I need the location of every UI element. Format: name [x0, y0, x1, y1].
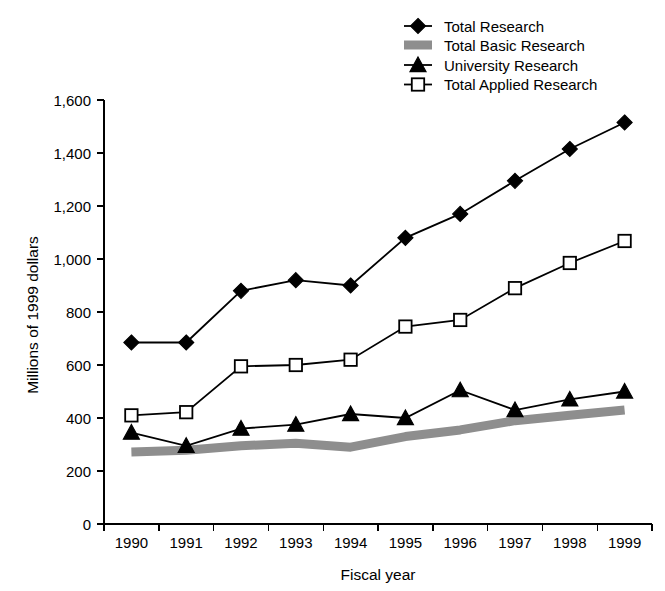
data-point-marker [344, 354, 356, 366]
data-point-marker [564, 257, 576, 269]
y-tick-label: 0 [83, 516, 91, 533]
x-tick-label: 1996 [444, 534, 477, 551]
legend-item: Total Basic Research [404, 37, 585, 54]
legend-item-label: Total Basic Research [444, 37, 585, 54]
data-point-marker [452, 382, 468, 397]
gray-band-swatch-icon [404, 41, 432, 50]
legend-item-label: Total Applied Research [444, 76, 597, 93]
series-group [124, 115, 632, 350]
legend-item-label: Total Research [444, 18, 544, 35]
data-point-marker [508, 173, 523, 188]
y-tick-label: 1,000 [53, 251, 91, 268]
x-tick-label: 1994 [334, 534, 367, 551]
y-axis-title: Millions of 1999 dollars [24, 236, 41, 394]
data-point-marker [618, 235, 630, 247]
chart-canvas: Millions of 1999 dollars Fiscal year 020… [0, 0, 665, 591]
chart-figure: Millions of 1999 dollars Fiscal year 020… [0, 0, 665, 591]
data-point-marker [617, 115, 632, 130]
x-tick-label: 1997 [498, 534, 531, 551]
x-axis-title: Fiscal year [341, 566, 416, 583]
y-tick-label: 600 [66, 357, 91, 374]
data-point-marker [343, 406, 359, 421]
data-point-marker [454, 314, 466, 326]
y-tick-label: 400 [66, 410, 91, 427]
series-polyline [131, 123, 624, 343]
x-tick-label: 1992 [224, 534, 257, 551]
y-tick-label: 1,600 [53, 92, 91, 109]
data-point-marker [411, 19, 426, 34]
y-tick-label: 200 [66, 463, 91, 480]
x-tick-label: 1991 [170, 534, 203, 551]
legend-item: University Research [404, 57, 578, 74]
legend-item-label: University Research [444, 57, 578, 74]
chart-legend: Total ResearchTotal Basic ResearchUniver… [404, 18, 597, 94]
x-tick-label: 1999 [608, 534, 641, 551]
x-tick-label: 1990 [115, 534, 148, 551]
x-axis-ticks: 1990199119921993199419951996199719981999 [104, 524, 652, 551]
x-tick-label: 1995 [389, 534, 422, 551]
series-polyline [131, 241, 624, 415]
data-point-marker [562, 142, 577, 157]
x-tick-label: 1993 [279, 534, 312, 551]
data-point-marker [180, 406, 192, 418]
data-point-marker [399, 320, 411, 332]
y-axis-ticks: 02004006008001,0001,2001,4001,600 [53, 92, 104, 533]
data-point-marker [123, 425, 139, 440]
y-tick-label: 1,200 [53, 198, 91, 215]
legend-item: Total Research [404, 18, 544, 35]
y-tick-label: 1,400 [53, 145, 91, 162]
x-tick-label: 1998 [553, 534, 586, 551]
data-point-marker [509, 282, 521, 294]
data-point-marker [412, 78, 424, 90]
legend-item: Total Applied Research [404, 76, 597, 93]
series-layer [123, 115, 632, 452]
data-point-marker [124, 335, 139, 350]
data-point-marker [453, 206, 468, 221]
data-point-marker [290, 359, 302, 371]
data-point-marker [288, 273, 303, 288]
y-tick-label: 800 [66, 304, 91, 321]
data-point-marker [125, 409, 137, 421]
data-point-marker [617, 384, 633, 399]
data-point-marker [235, 360, 247, 372]
